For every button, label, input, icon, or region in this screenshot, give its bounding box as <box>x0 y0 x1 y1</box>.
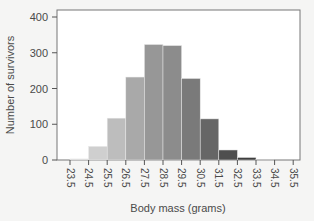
x-tick-label: 25.5 <box>102 168 113 188</box>
y-tick-label: 200 <box>30 83 48 95</box>
y-tick-label: 100 <box>30 118 48 130</box>
histogram-bar <box>182 78 201 160</box>
histogram-bar <box>163 46 182 160</box>
x-tick-label: 30.5 <box>195 168 206 188</box>
histogram-bar <box>107 118 126 160</box>
histogram-bar <box>200 119 219 160</box>
y-tick-label: 300 <box>30 47 48 59</box>
x-tick-label: 24.5 <box>83 168 94 188</box>
x-tick-label: 33.5 <box>251 168 262 188</box>
x-tick-label: 27.5 <box>139 168 150 188</box>
y-axis: 0100200300400 <box>30 11 57 166</box>
x-tick-label: 29.5 <box>176 168 187 188</box>
histogram-bar <box>237 157 256 160</box>
histogram-bar <box>256 159 275 160</box>
histogram-bar <box>126 77 145 160</box>
x-tick-label: 23.5 <box>65 168 76 188</box>
x-tick-label: 34.5 <box>269 168 280 188</box>
histogram-bar <box>144 45 163 160</box>
chart-svg: 0100200300400 23.524.525.526.527.528.529… <box>0 0 314 221</box>
histogram-bar <box>219 150 238 160</box>
x-tick-label: 28.5 <box>158 168 169 188</box>
y-axis-label: Number of survivors <box>4 35 16 134</box>
histogram-bar <box>89 146 108 160</box>
x-tick-label: 31.5 <box>213 168 224 188</box>
x-axis: 23.524.525.526.527.528.529.530.531.532.5… <box>65 160 299 188</box>
histogram-bar <box>70 159 89 160</box>
x-tick-label: 35.5 <box>288 168 299 188</box>
histogram-chart: 0100200300400 23.524.525.526.527.528.529… <box>0 0 314 221</box>
x-tick-label: 26.5 <box>120 168 131 188</box>
x-axis-label: Body mass (grams) <box>130 202 225 214</box>
x-tick-label: 32.5 <box>232 168 243 188</box>
y-tick-label: 400 <box>30 11 48 23</box>
y-tick-label: 0 <box>42 154 48 166</box>
